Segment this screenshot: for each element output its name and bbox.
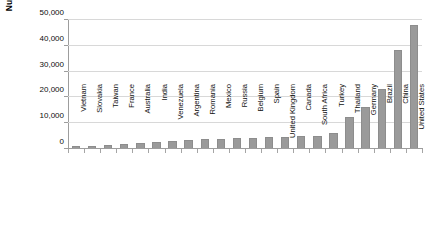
x-axis-tick-mark bbox=[181, 149, 182, 153]
x-axis-tick-mark bbox=[245, 149, 246, 153]
x-axis-tick-mark bbox=[84, 149, 85, 153]
x-axis-tick-mark bbox=[390, 149, 391, 153]
x-axis-tick-mark bbox=[374, 149, 375, 153]
x-axis-category-label: China bbox=[401, 84, 411, 154]
x-axis-category-label: Spain bbox=[272, 84, 282, 154]
gridline bbox=[68, 71, 422, 72]
x-axis-tick-mark bbox=[277, 149, 278, 153]
x-axis-category-label: Germany bbox=[369, 84, 379, 154]
x-axis-tick-mark bbox=[100, 149, 101, 153]
x-axis-category-label: Venezuela bbox=[176, 84, 186, 154]
x-axis-tick-mark bbox=[261, 149, 262, 153]
x-axis-tick-mark bbox=[406, 149, 407, 153]
gridline bbox=[68, 19, 422, 20]
x-axis-tick-mark bbox=[358, 149, 359, 153]
x-axis-category-label: Taiwan bbox=[111, 84, 121, 154]
x-axis-tick-mark bbox=[309, 149, 310, 153]
y-axis-tick-mark bbox=[64, 96, 68, 97]
y-axis-tick-label: 20,000 bbox=[20, 86, 64, 94]
x-axis-category-label: India bbox=[160, 84, 170, 154]
x-axis-tick-mark bbox=[213, 149, 214, 153]
x-axis-tick-mark bbox=[229, 149, 230, 153]
x-axis-category-label: France bbox=[127, 84, 137, 154]
x-axis-category-label: Slovakia bbox=[95, 84, 105, 154]
x-axis-category-label: United Kingdom bbox=[288, 84, 298, 154]
bar-chart: Number of employees 50,00040,00030,00020… bbox=[0, 0, 435, 225]
x-axis-tick-mark bbox=[342, 149, 343, 153]
y-axis-tick-labels: 50,00040,00030,00020,00010,0000 bbox=[20, 13, 64, 153]
x-axis-category-label: Mexico bbox=[224, 84, 234, 154]
x-axis-tick-mark bbox=[68, 149, 69, 153]
x-axis-category-label: Turkey bbox=[337, 84, 347, 154]
x-axis-category-label: Belgium bbox=[256, 84, 266, 154]
x-axis-category-label: United States bbox=[417, 84, 427, 154]
y-axis-tick-label: 0 bbox=[20, 138, 64, 146]
x-axis-tick-mark bbox=[116, 149, 117, 153]
x-axis-category-label: Vietnam bbox=[79, 84, 89, 154]
y-axis-tick-mark bbox=[64, 71, 68, 72]
x-axis-category-label: South Africa bbox=[320, 84, 330, 154]
x-axis-category-label: Thailand bbox=[353, 84, 363, 154]
x-axis-category-label: Argentina bbox=[192, 84, 202, 154]
x-axis-tick-mark bbox=[165, 149, 166, 153]
x-axis-category-label: Brazil bbox=[385, 84, 395, 154]
x-axis-tick-mark bbox=[325, 149, 326, 153]
x-axis-category-label: Australia bbox=[143, 84, 153, 154]
y-axis-tick-mark bbox=[64, 122, 68, 123]
x-axis-tick-mark bbox=[132, 149, 133, 153]
x-axis-tick-mark bbox=[422, 149, 423, 153]
x-axis-category-label: Russia bbox=[240, 84, 250, 154]
y-axis-tick-label: 50,000 bbox=[20, 9, 64, 17]
x-axis-tick-mark bbox=[148, 149, 149, 153]
x-axis-tick-mark bbox=[293, 149, 294, 153]
y-axis-title: Number of employees bbox=[2, 0, 16, 32]
x-axis-tick-mark bbox=[197, 149, 198, 153]
y-axis-tick-label: 10,000 bbox=[20, 112, 64, 120]
x-axis-category-label: Canada bbox=[304, 84, 314, 154]
y-axis-tick-label: 40,000 bbox=[20, 35, 64, 43]
y-axis-tick-mark bbox=[64, 45, 68, 46]
x-axis-category-label: Romania bbox=[208, 84, 218, 154]
gridline bbox=[68, 45, 422, 46]
y-axis-tick-mark bbox=[64, 19, 68, 20]
y-axis-tick-label: 30,000 bbox=[20, 61, 64, 69]
